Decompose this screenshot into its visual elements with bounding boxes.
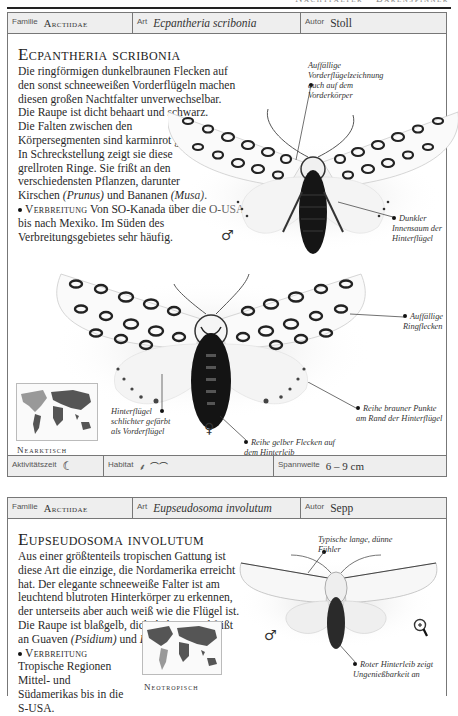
plant-icon: ⸙ xyxy=(139,460,146,473)
annotation-text: Auffällige Ringflecken xyxy=(403,312,443,331)
family-cell: Familie Arctiidae xyxy=(8,13,133,33)
annotation-forewing-pattern: Auffällige Vorderflügelzeichnung auch au… xyxy=(308,61,393,101)
world-map-neotropic xyxy=(142,621,222,675)
annotation-brown-dots: Reihe brauner Punkte am Rand der Hinterf… xyxy=(356,404,448,424)
info-bar: Aktivitätszeit ☾ Habitat ⸙ ⌒⌒ Spannweite… xyxy=(7,455,447,477)
leader-line xyxy=(338,643,358,665)
genus-psidium: (Psidium) xyxy=(71,633,117,646)
species-label: Art xyxy=(137,502,147,511)
description-para-1: Die ringförmigen dunkelbraunen Flecken a… xyxy=(18,65,246,106)
magnifier-icon xyxy=(413,618,429,638)
leader-line xyxy=(220,416,250,442)
distribution-text: Tropische Regionen Mittel- und Südamerik… xyxy=(18,660,123,714)
species-card-eupseudosoma: Familie Arctiidae Art Eupseudosoma invol… xyxy=(7,497,447,696)
male-symbol: ♂ xyxy=(221,227,234,243)
annotation-text: Dunkler Innensaum der Hinterflügel xyxy=(392,214,442,243)
region-label: Nearktisch xyxy=(17,445,67,455)
top-rule xyxy=(7,7,451,9)
wingspan-label: Spannweite xyxy=(278,460,320,469)
habitat-label: Habitat xyxy=(108,460,133,469)
activity-label: Aktivitätszeit xyxy=(12,460,56,469)
annotation-red-abdomen: Roter Hinterleib zeigt Ungenießbarkeit a… xyxy=(353,660,448,680)
description-text-1: Die ringförmigen dunkelbraunen Flecken a… xyxy=(18,65,235,106)
species-value: Ecpantheria scribonia xyxy=(153,17,256,29)
author-value: Sepp xyxy=(330,502,353,514)
leader-line xyxy=(308,382,358,410)
landscape-icon: ⌒⌒ xyxy=(150,460,168,473)
genus-prunus: (Prunus) xyxy=(63,189,104,202)
family-label: Familie xyxy=(12,502,38,511)
species-cell: Art Eupseudosoma involutum xyxy=(133,498,301,518)
family-value: Arctiidae xyxy=(44,503,88,514)
species-header: Familie Arctiidae Art Ecpantheria scribo… xyxy=(7,12,447,34)
species-title: Eupseudosoma involutum xyxy=(18,530,204,550)
species-label: Art xyxy=(137,17,147,26)
annotation-dark-inner-margin: Dunkler Innensaum der Hinterflügel xyxy=(392,214,444,244)
author-cell: Autor Sepp xyxy=(301,498,446,518)
distribution-label: Verbreitung xyxy=(25,203,87,216)
distribution-para: Verbreitung Tropische Regionen Mittel- u… xyxy=(18,647,130,716)
wingspan-value: 6 – 9 cm xyxy=(326,460,364,472)
bullet-icon xyxy=(18,208,22,212)
description-text-2b: und Bananen xyxy=(104,189,171,202)
author-label: Autor xyxy=(305,17,324,26)
family-cell: Familie Arctiidae xyxy=(8,498,133,518)
leader-line xyxy=(338,200,394,220)
habitat-cell: Habitat ⸙ ⌒⌒ xyxy=(104,456,274,476)
annotation-text: Roter Hinterleib zeigt Ungenießbarkeit a… xyxy=(353,660,433,679)
distribution-label: Verbreitung xyxy=(25,647,87,660)
annotation-ring-spots: Auffällige Ringflecken xyxy=(403,312,447,332)
male-symbol: ♂ xyxy=(264,627,277,643)
world-map-nearctic xyxy=(16,383,98,441)
leader-line xyxy=(158,374,166,414)
female-symbol: ♀ xyxy=(204,420,214,436)
species-card-ecpantheria: Familie Arctiidae Art Ecpantheria scribo… xyxy=(7,12,447,475)
leader-line xyxy=(350,312,405,320)
wingspan-cell: Spannweite 6 – 9 cm xyxy=(274,456,446,476)
moon-icon: ☾ xyxy=(62,459,73,473)
author-cell: Autor Stoll xyxy=(301,13,446,33)
running-head-text: Nachtfalter · Bärenspinner xyxy=(295,0,449,4)
author-value: Stoll xyxy=(330,17,352,29)
author-label: Autor xyxy=(305,502,324,511)
annotation-text: Typische lange, dünne Fühler xyxy=(318,535,393,554)
annotation-text: Reihe brauner Punkte am Rand der Hinterf… xyxy=(356,404,442,423)
family-label: Familie xyxy=(12,17,38,26)
family-value: Arctiidae xyxy=(44,18,88,29)
species-title: Ecpantheria scribonia xyxy=(18,45,181,65)
species-header: Familie Arctiidae Art Eupseudosoma invol… xyxy=(7,497,447,519)
region-label: Neotropisch xyxy=(144,682,199,692)
annotation-text: Auffällige Vorderflügelzeichnung auch au… xyxy=(308,61,384,100)
description-text-1b: und xyxy=(117,633,140,646)
leader-line xyxy=(305,549,327,575)
species-value: Eupseudosoma involutum xyxy=(153,502,272,514)
leader-line xyxy=(293,82,313,162)
bullet-icon xyxy=(18,652,22,656)
species-cell: Art Ecpantheria scribonia xyxy=(133,13,301,33)
activity-cell: Aktivitätszeit ☾ xyxy=(8,456,104,476)
annotation-antennae: Typische lange, dünne Fühler xyxy=(318,535,398,555)
